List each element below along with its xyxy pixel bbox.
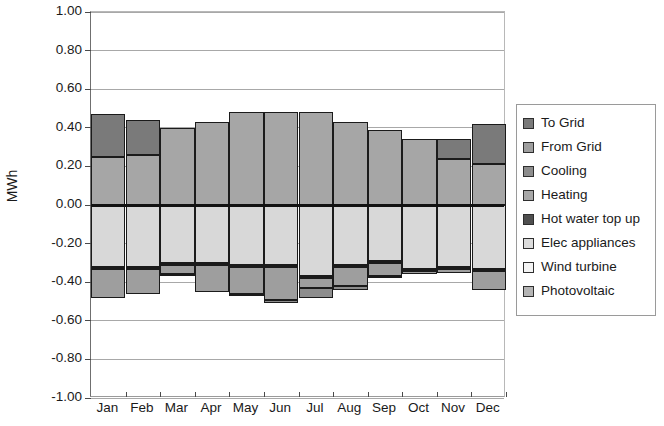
- bar-segment[interactable]: [195, 205, 229, 263]
- stacked-bar-chart: MWh 1.000.800.600.400.200.00-0.20-0.40-0…: [0, 0, 664, 426]
- x-axis-tick-mark: [506, 392, 507, 397]
- bar-segment[interactable]: [437, 139, 471, 158]
- bar-segment[interactable]: [402, 271, 436, 275]
- y-axis-tick-label: -1.00: [26, 390, 82, 403]
- legend-item-wind-turbine[interactable]: Wind turbine: [523, 255, 651, 279]
- x-axis-label-dec: Dec: [470, 400, 505, 415]
- x-axis-label-feb: Feb: [125, 400, 160, 415]
- y-axis-tick-label: -0.40: [26, 274, 82, 287]
- bar-segment[interactable]: [126, 120, 160, 155]
- legend: To GridFrom GridCoolingHeatingHot water …: [516, 104, 656, 316]
- legend-item-label: Wind turbine: [541, 260, 617, 274]
- legend-item-label: Photovoltaic: [541, 284, 615, 298]
- x-axis-label-jun: Jun: [263, 400, 298, 415]
- bar-segment[interactable]: [229, 267, 263, 294]
- legend-item-heating[interactable]: Heating: [523, 183, 651, 207]
- legend-swatch-icon: [523, 286, 534, 297]
- bar-segment[interactable]: [472, 124, 506, 165]
- bar-segment[interactable]: [333, 122, 367, 205]
- bar-segment[interactable]: [299, 288, 333, 298]
- y-axis-tick-label: 0.80: [26, 43, 82, 56]
- bar-segment[interactable]: [264, 205, 298, 265]
- x-axis-label-sep: Sep: [367, 400, 402, 415]
- x-axis-label-jan: Jan: [90, 400, 125, 415]
- x-axis-label-mar: Mar: [159, 400, 194, 415]
- legend-item-photovoltaic[interactable]: Photovoltaic: [523, 279, 651, 303]
- bar-segment[interactable]: [299, 278, 333, 288]
- x-axis-label-oct: Oct: [401, 400, 436, 415]
- x-axis-label-apr: Apr: [194, 400, 229, 415]
- bar-segment[interactable]: [299, 112, 333, 205]
- bar-segment[interactable]: [368, 263, 402, 277]
- bar-segment[interactable]: [229, 112, 263, 205]
- legend-swatch-icon: [523, 142, 534, 153]
- bar-segment[interactable]: [229, 205, 263, 265]
- bar-segment[interactable]: [264, 300, 298, 304]
- x-axis-label-nov: Nov: [436, 400, 471, 415]
- bar-segment[interactable]: [264, 112, 298, 205]
- bar-segment[interactable]: [91, 114, 125, 156]
- plot-area: [90, 11, 505, 397]
- bar-segment[interactable]: [91, 269, 125, 298]
- legend-swatch-icon: [523, 166, 534, 177]
- bar-segment[interactable]: [368, 130, 402, 205]
- legend-item-label: Heating: [541, 188, 588, 202]
- bar-segment[interactable]: [333, 267, 367, 286]
- x-axis-label-may: May: [228, 400, 263, 415]
- y-axis-tick-label: -0.60: [26, 313, 82, 326]
- legend-item-label: Hot water top up: [541, 212, 640, 226]
- bar-segment[interactable]: [402, 205, 436, 269]
- legend-swatch-icon: [523, 262, 534, 273]
- bar-segment[interactable]: [195, 122, 229, 205]
- y-axis-tick-label: -0.80: [26, 351, 82, 364]
- bar-segment[interactable]: [160, 265, 194, 275]
- bar-segment[interactable]: [368, 276, 402, 278]
- bar-segment[interactable]: [126, 269, 160, 294]
- legend-item-cooling[interactable]: Cooling: [523, 159, 651, 183]
- x-axis-label-jul: Jul: [298, 400, 333, 415]
- y-axis-tick-label: 0.40: [26, 120, 82, 133]
- legend-swatch-icon: [523, 118, 534, 129]
- bar-segment[interactable]: [160, 128, 194, 205]
- bar-segment[interactable]: [402, 139, 436, 205]
- bar-segment[interactable]: [160, 274, 194, 276]
- bar-segment[interactable]: [229, 294, 263, 296]
- bar-segment[interactable]: [264, 267, 298, 300]
- bar-segment[interactable]: [91, 157, 125, 205]
- y-axis-tick-label: 0.20: [26, 158, 82, 171]
- legend-item-label: To Grid: [541, 116, 585, 130]
- x-axis-tick-labels: JanFebMarAprMayJunJulAugSepOctNovDec: [90, 400, 505, 424]
- y-axis-tick-label: -0.20: [26, 236, 82, 249]
- x-axis-label-aug: Aug: [332, 400, 367, 415]
- legend-item-to-grid[interactable]: To Grid: [523, 111, 651, 135]
- bar-segment[interactable]: [91, 205, 125, 267]
- legend-item-label: Cooling: [541, 164, 587, 178]
- bar-segment[interactable]: [333, 286, 367, 290]
- gridline: [91, 398, 504, 399]
- y-axis-tick-label: 0.00: [26, 197, 82, 210]
- bar-segment[interactable]: [472, 271, 506, 290]
- y-axis-label-container: MWh: [0, 0, 26, 397]
- bar-segment[interactable]: [368, 205, 402, 261]
- bar-segment[interactable]: [472, 205, 506, 269]
- y-axis-label: MWh: [4, 136, 20, 236]
- bar-segment[interactable]: [126, 205, 160, 267]
- bar-segment[interactable]: [472, 164, 506, 205]
- bar-segment[interactable]: [333, 205, 367, 265]
- bar-segment[interactable]: [437, 159, 471, 205]
- bar-segment[interactable]: [126, 155, 160, 205]
- legend-swatch-icon: [523, 214, 534, 225]
- bar-segment[interactable]: [437, 269, 471, 273]
- y-axis-tick-label: 0.60: [26, 81, 82, 94]
- legend-item-from-grid[interactable]: From Grid: [523, 135, 651, 159]
- bar-segment[interactable]: [437, 205, 471, 267]
- bar-segment[interactable]: [195, 265, 229, 292]
- bar-segment[interactable]: [160, 205, 194, 263]
- legend-item-hot-water-top-up[interactable]: Hot water top up: [523, 207, 651, 231]
- y-axis-tick-label: 1.00: [26, 4, 82, 17]
- legend-item-elec-appliances[interactable]: Elec appliances: [523, 231, 651, 255]
- legend-swatch-icon: [523, 238, 534, 249]
- y-axis-tick-mark: [85, 398, 91, 399]
- legend-item-label: From Grid: [541, 140, 602, 154]
- bar-segment[interactable]: [299, 205, 333, 276]
